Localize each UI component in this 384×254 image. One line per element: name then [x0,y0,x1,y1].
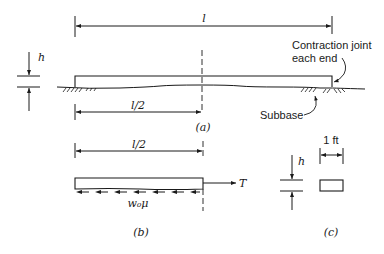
friction-label: w₀μ [128,197,149,210]
subbase-label: Subbase [260,109,303,121]
subbase-line [57,85,365,89]
caption-c: (c) [324,226,339,239]
thickness-label-c: h [298,155,305,168]
width-label-c: 1 ft [323,134,338,146]
friction-arrows [76,190,200,194]
joint-note-line2: each end [292,52,337,64]
slab-b [75,178,203,190]
length-dimension: l [75,12,332,37]
half-length-dimension-a: l/2 [75,99,201,120]
half-length-label-a: l/2 [131,99,145,112]
part-a: l h [17,12,372,134]
slab-diagram: l h [0,0,384,254]
length-label: l [202,12,206,25]
joint-note-line1: Contraction joint [292,39,372,51]
subbase-leader [304,96,316,115]
thickness-label-a: h [38,51,45,64]
part-b: l/2 w₀μ T (b) [75,138,248,239]
caption-b: (b) [133,226,149,239]
thickness-dimension-a: h [17,51,45,111]
part-c: 1 ft h (c) [280,134,343,239]
tension-label: T [239,177,248,190]
half-length-label-b: l/2 [132,138,146,151]
ground-hatch-right [301,88,345,93]
cross-section [320,180,343,191]
caption-a: (a) [195,121,210,134]
